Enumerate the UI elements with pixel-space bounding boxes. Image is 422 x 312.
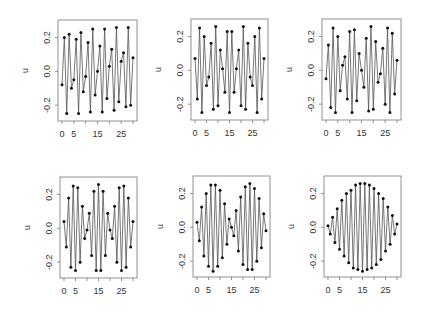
data-point (386, 206, 389, 209)
data-point (94, 94, 97, 97)
data-point (396, 59, 399, 62)
data-point (216, 265, 219, 268)
series-line (328, 183, 397, 271)
data-point (356, 268, 359, 271)
data-point (237, 49, 240, 52)
data-point (393, 93, 396, 96)
data-point (120, 60, 123, 63)
data-point (329, 106, 332, 109)
data-point (355, 99, 358, 102)
data-point (351, 111, 354, 114)
data-point (124, 105, 127, 108)
data-point (122, 51, 125, 54)
data-point (366, 268, 369, 271)
data-point (105, 97, 108, 100)
data-point (74, 269, 77, 272)
data-point (258, 197, 261, 200)
data-point (198, 239, 201, 242)
x-tick-label: 0 (192, 128, 197, 138)
y-axis-label: u (284, 67, 294, 72)
y-tick-label: 0.2 (177, 187, 187, 200)
data-point (362, 86, 365, 89)
y-tick-label: 0.2 (308, 187, 318, 200)
x-tick-label: 5 (335, 128, 340, 138)
data-point (223, 202, 226, 205)
data-point (327, 43, 330, 46)
data-point (104, 254, 107, 257)
data-point (75, 38, 78, 41)
y-tick-label: -0.2 (306, 96, 316, 112)
series-line (195, 26, 264, 112)
data-point (221, 256, 224, 259)
data-point (329, 233, 332, 236)
x-axis: 051525 (325, 277, 397, 295)
data-point (63, 36, 66, 39)
data-point (83, 237, 86, 240)
data-point (122, 185, 125, 188)
data-point (367, 109, 370, 112)
data-point (228, 217, 231, 220)
y-tick-label: -0.2 (308, 253, 318, 269)
data-point (253, 187, 256, 190)
data-point (246, 42, 249, 45)
data-point (384, 103, 387, 106)
x-axis: 051525 (192, 120, 264, 138)
data-point (72, 185, 75, 188)
data-point (127, 26, 130, 29)
data-point (230, 226, 233, 229)
plot-panel-3: -0.20.00.2u051525 (284, 19, 401, 138)
data-point (115, 26, 118, 29)
figure: -0.20.00.2u051525-0.20.00.2u051525-0.20.… (0, 0, 422, 312)
data-point (350, 189, 353, 192)
y-tick-label: -0.2 (175, 96, 185, 112)
data-point (361, 270, 364, 273)
y-tick-label: 0.0 (177, 221, 187, 234)
data-point (393, 233, 396, 236)
data-point (346, 98, 349, 101)
data-point (225, 243, 228, 246)
data-point (111, 237, 114, 240)
x-tick-label: 15 (224, 128, 234, 138)
data-point (106, 212, 109, 215)
y-axis: -0.20.00.2 (42, 31, 58, 113)
data-point (359, 182, 362, 185)
data-point (90, 254, 93, 257)
y-axis-label: u (22, 225, 32, 230)
data-point (81, 205, 84, 208)
data-point (336, 35, 339, 38)
data-point (88, 212, 91, 215)
y-axis-label: u (286, 224, 296, 229)
x-tick-label: 25 (116, 286, 126, 296)
data-point (333, 241, 336, 244)
data-point (203, 35, 206, 38)
x-tick-label: 0 (194, 285, 199, 295)
y-tick-label: 0.0 (42, 65, 52, 78)
data-point (331, 216, 334, 219)
data-point (129, 245, 132, 248)
data-point (68, 33, 71, 36)
data-point (251, 84, 254, 87)
data-point (214, 25, 217, 28)
data-point (103, 28, 106, 31)
data-point (242, 263, 245, 266)
data-point (339, 89, 342, 92)
data-point (379, 72, 382, 75)
x-axis: 051525 (59, 121, 133, 139)
data-point (217, 104, 220, 107)
data-point (240, 104, 243, 107)
data-point (260, 98, 263, 101)
y-tick-label: -0.2 (44, 254, 54, 270)
data-point (258, 27, 261, 30)
data-point (360, 69, 363, 72)
data-point (396, 222, 399, 225)
x-tick-label: 5 (73, 286, 78, 296)
data-point (209, 184, 212, 187)
data-point (368, 184, 371, 187)
data-point (110, 48, 113, 51)
data-point (373, 187, 376, 190)
data-point (369, 25, 372, 28)
data-point (98, 44, 101, 47)
data-point (248, 182, 251, 185)
data-point (72, 78, 75, 81)
y-axis-label: u (153, 67, 163, 72)
